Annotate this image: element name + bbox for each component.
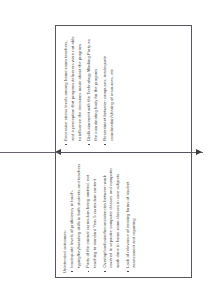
list-item: Resentment between campuses, inadequate … [102,33,116,146]
bullet-text: Overlap/confusion/inconsistencies betwee… [102,168,121,268]
bullet-text: Disillusionment with the Technology Work… [86,39,98,141]
cell-stress-and-disillusionment: Excessive stress levels among home-room … [56,26,191,151]
cell-a-text: Excessive stress levels among home-room … [63,33,118,146]
cell-b-bullet-list: Inadequate levels of proficiency in touc… [69,159,138,273]
bullet-text: Inadequate levels of proficiency in touc… [69,164,81,268]
cell-b-text: Unintended outcomes: Inadequate levels o… [62,159,141,273]
list-item: Disillusionment with the Technology Work… [86,33,100,146]
list-item: Lack of relevance of existing forms of s… [125,159,139,273]
bullet-text: Resentment between campuses, inadequate … [102,56,114,141]
list-item: Parts of the normal curriculum being omi… [85,159,99,273]
bullet-text: Excessive stress levels among home-room … [63,36,82,140]
bullet-text: Lack of relevance of existing forms of s… [125,181,137,267]
cell-b-heading: Unintended outcomes: [62,159,69,273]
bullet-text: Parts of the normal curriculum being omi… [85,175,97,268]
list-item: Overlap/confusion/inconsistencies betwee… [102,159,122,273]
cell-a-bullet-list: Excessive stress levels among home-room … [63,33,116,146]
arrow-right-icon [196,149,202,155]
list-item: Excessive stress levels among home-room … [63,33,83,146]
cell-unintended-outcomes: Unintended outcomes: Inadequate levels o… [56,153,191,277]
list-item: Inadequate levels of proficiency in touc… [69,159,83,273]
diagram-canvas: Excessive stress levels among home-room … [0,0,209,284]
